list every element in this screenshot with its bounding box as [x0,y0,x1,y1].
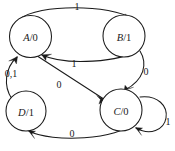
fsm-svg: 1 1 0 0 0 0,1 [0,0,175,151]
state-node-d[interactable]: D/1 [6,91,46,131]
state-node-b-output: 1 [126,31,131,42]
state-node-b[interactable]: B/1 [103,15,145,57]
state-node-c-label: C/0 [113,105,128,116]
transition-c-to-c-self-loop-label: 1 [166,116,171,127]
state-node-d-label: D/1 [17,106,34,117]
state-node-a-output: 0 [33,32,38,43]
state-node-c-output: 0 [123,105,128,116]
transition-d-to-a-label: 0,1 [5,68,18,79]
state-node-a-label: A/0 [22,32,38,43]
transition-b-to-c-label: 0 [144,66,149,77]
transition-b-to-a-label: 1 [72,58,77,69]
transition-a-to-c-label: 0 [57,79,62,90]
state-node-c[interactable]: C/0 [100,89,142,131]
transition-a-to-b-label: 1 [75,1,80,12]
transition-c-to-d-label: 0 [70,128,75,139]
transition-d-to-a-arrowhead [9,57,18,65]
transition-a-to-c-path [37,56,105,100]
transition-c-to-d-arrowhead [28,131,35,139]
transition-c-to-c-self-loop-arrowhead [135,128,142,136]
state-node-d-output: 1 [29,106,34,117]
state-node-a[interactable]: A/0 [10,16,52,58]
state-diagram-canvas: 1 1 0 0 0 0,1 [0,0,175,151]
transition-d-to-a: 0,1 [5,57,18,100]
state-node-b-label: B/1 [117,31,132,42]
